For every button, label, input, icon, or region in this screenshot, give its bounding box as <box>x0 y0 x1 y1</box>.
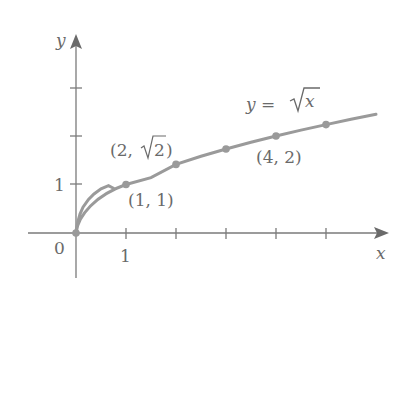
annotation-4-2: (4, 2) <box>256 147 302 167</box>
y-axis-label: y <box>55 30 66 50</box>
origin-label: 0 <box>54 238 65 258</box>
point-0-0 <box>72 229 80 237</box>
point-3-sqrt3 <box>222 145 230 153</box>
annotation-2-sqrt2: (2, 2 ) <box>110 136 173 160</box>
x-tick-label-1: 1 <box>120 246 131 266</box>
data-points <box>72 121 330 237</box>
ann2-lhs: (2, <box>110 140 133 160</box>
eq-lhs: y = <box>245 94 275 114</box>
annotation-1-1: (1, 1) <box>128 190 174 210</box>
point-4-2 <box>272 132 280 140</box>
svg-text:y =: y = <box>245 94 275 114</box>
point-5-sqrt5 <box>322 121 330 129</box>
ann2-rhs: ) <box>166 140 173 160</box>
ann2-radicand: 2 <box>154 140 165 160</box>
x-axis-label: x <box>376 243 386 263</box>
eq-radicand: x <box>305 91 315 111</box>
y-tick-label-1: 1 <box>54 175 65 195</box>
point-2-sqrt2 <box>172 161 180 169</box>
svg-text:(2,: (2, <box>110 140 133 160</box>
sqrt-curve <box>76 114 376 233</box>
axes <box>28 46 380 278</box>
sqrt-graph: y x 0 1 1 y = x (1, 1) (2, 2 ) (4, 2) <box>0 0 401 394</box>
equation-label: y = x <box>245 88 320 114</box>
point-1-1 <box>122 181 130 189</box>
